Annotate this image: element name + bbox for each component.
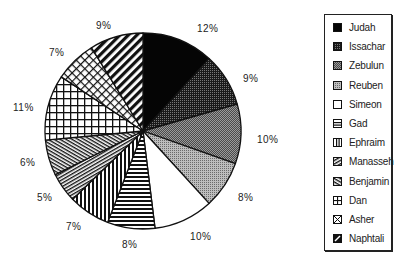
percent-label: 12%	[197, 23, 219, 34]
legend-label: Simeon	[349, 99, 382, 110]
legend-item-zebulun: Zebulun	[325, 56, 391, 75]
legend-item-benjamin: Benjamin	[325, 172, 391, 191]
legend-item-gad: Gad	[325, 114, 391, 133]
legend-label: Ephraim	[349, 137, 385, 148]
percent-label: 5%	[37, 192, 52, 203]
white-swatch-icon	[333, 100, 342, 109]
diag-crosshatch-swatch-icon	[333, 215, 342, 224]
diagonal-back-swatch-icon	[333, 157, 342, 166]
legend-item-reuben: Reuben	[325, 76, 391, 95]
legend-label: Dan	[349, 195, 367, 206]
legend-label: Gad	[349, 118, 367, 129]
percent-label: 11%	[13, 102, 34, 113]
percent-label: 6%	[20, 157, 35, 168]
legend-item-simeon: Simeon	[325, 95, 391, 114]
legend-label: Asher	[349, 214, 374, 225]
legend-item-naphtali: Naphtali	[325, 229, 391, 248]
medium-gray-swatch-icon	[333, 61, 342, 70]
legend-item-dan: Dan	[325, 191, 391, 210]
legend-item-issachar: Issachar	[325, 37, 391, 56]
legend-item-judah: Judah	[325, 18, 391, 37]
percent-label: 10%	[190, 231, 212, 242]
percent-label: 7%	[66, 221, 81, 232]
legend-item-ephraim: Ephraim	[325, 133, 391, 152]
legend-label: Judah	[349, 22, 375, 33]
percent-label: 10%	[257, 134, 279, 145]
light-gray-swatch-icon	[333, 81, 342, 90]
dark-dots-swatch-icon	[333, 42, 342, 51]
diagonal-forward-swatch-icon	[333, 177, 342, 186]
percent-label: 8%	[238, 192, 253, 203]
solid-black-swatch-icon	[333, 23, 342, 32]
percent-label: 8%	[122, 239, 137, 250]
pie-slices	[45, 33, 241, 229]
percent-label: 9%	[243, 73, 258, 84]
wide-diagonal-swatch-icon	[333, 234, 342, 243]
horizontal-lines-swatch-icon	[333, 119, 342, 128]
legend: Judah Issachar Zebulun Reuben Simeon Gad…	[324, 14, 392, 251]
legend-label: Naphtali	[349, 233, 384, 244]
legend-label: Issachar	[349, 41, 385, 52]
legend-item-manasseh: Manasseh	[325, 152, 391, 171]
percent-label: 9%	[96, 20, 111, 31]
legend-label: Zebulun	[349, 60, 384, 71]
legend-label: Manasseh	[349, 156, 394, 167]
legend-item-asher: Asher	[325, 210, 391, 229]
pie-chart: 12%9%10%8%10%8%7%5%6%11%7%9%	[0, 0, 320, 264]
vertical-lines-swatch-icon	[333, 138, 342, 147]
grid-swatch-icon	[333, 196, 342, 205]
percent-label: 7%	[49, 47, 64, 58]
legend-label: Benjamin	[349, 176, 389, 187]
legend-label: Reuben	[349, 80, 383, 91]
